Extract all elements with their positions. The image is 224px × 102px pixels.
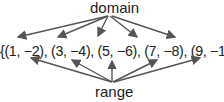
range-arrow-4 <box>72 60 112 82</box>
range-arrow-10 <box>114 58 200 82</box>
domain-arrow-9 <box>112 16 175 37</box>
domain-arrow-1 <box>18 16 108 37</box>
range-arrow-2 <box>31 58 112 82</box>
range-arrow-8 <box>113 60 157 82</box>
arrows <box>0 0 224 102</box>
